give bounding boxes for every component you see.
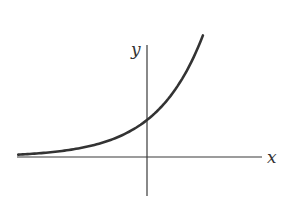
y-axis-label: y xyxy=(130,39,141,59)
x-axis-label: x xyxy=(267,147,277,167)
exponential-curve xyxy=(18,35,203,154)
chart-canvas: x y xyxy=(0,0,296,202)
